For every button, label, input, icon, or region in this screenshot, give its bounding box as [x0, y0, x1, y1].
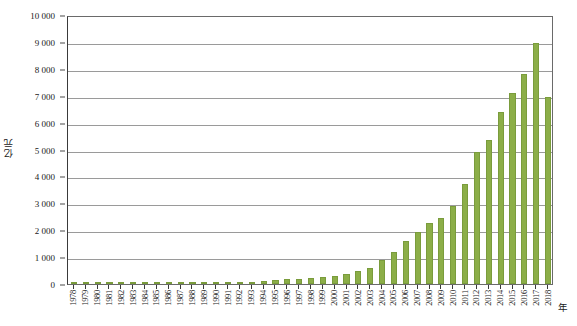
bar [343, 274, 349, 284]
x-tick-mark [263, 285, 264, 289]
x-tick-label: 2001 [341, 290, 351, 306]
y-tick-mark [60, 177, 65, 178]
y-tick-label: 4 000 [35, 172, 55, 182]
x-tick-mark [191, 285, 192, 289]
x-tick-label: 1978 [68, 290, 78, 306]
bar [118, 282, 124, 284]
x-tick-label: 2015 [507, 290, 517, 306]
x-tick-label: 1990 [211, 290, 221, 306]
x-tick-label: 2018 [543, 290, 553, 306]
bar [379, 260, 385, 284]
x-tick-label: 1986 [163, 290, 173, 306]
x-tick-mark [227, 285, 228, 289]
x-tick-mark [334, 285, 335, 289]
x-tick-label: 2014 [495, 290, 505, 306]
x-tick-label: 1979 [80, 290, 90, 306]
x-tick-mark [215, 285, 216, 289]
y-tick-label: 1 000 [35, 253, 55, 263]
x-tick-label: 2017 [531, 290, 541, 306]
y-tick-label: 6 000 [35, 119, 55, 129]
bar [237, 282, 243, 284]
x-tick-label: 1996 [282, 290, 292, 306]
x-tick-mark [476, 285, 477, 289]
x-tick-mark [488, 285, 489, 289]
x-tick-label: 1994 [258, 290, 268, 306]
y-tick-label: 3 000 [35, 199, 55, 209]
x-tick-label: 2006 [400, 290, 410, 306]
y-tick-mark [60, 150, 65, 151]
y-tick-mark [60, 204, 65, 205]
x-tick-mark [393, 285, 394, 289]
y-tick-mark [60, 231, 65, 232]
x-tick-mark [168, 285, 169, 289]
x-tick-mark [346, 285, 347, 289]
x-tick-mark [203, 285, 204, 289]
y-axis-labels: 01 0002 0003 0004 0005 0006 0007 0008 00… [0, 0, 67, 326]
x-tick-mark [357, 285, 358, 289]
bar [71, 282, 77, 284]
x-tick-mark [405, 285, 406, 289]
x-tick-mark [73, 285, 74, 289]
x-tick-label: 2011 [460, 290, 470, 306]
x-tick-label: 2004 [377, 290, 387, 306]
x-tick-mark [132, 285, 133, 289]
x-tick-label: 1980 [92, 290, 102, 306]
x-tick-label: 1998 [306, 290, 316, 306]
bar [213, 282, 219, 284]
y-tick-mark [60, 285, 65, 286]
x-tick-label: 1989 [199, 290, 209, 306]
bar [189, 282, 195, 284]
x-tick-mark [429, 285, 430, 289]
bar [332, 276, 338, 284]
x-tick-mark [535, 285, 536, 289]
x-tick-mark [97, 285, 98, 289]
x-tick-mark [298, 285, 299, 289]
x-tick-label: 2007 [412, 290, 422, 306]
x-tick-label: 1991 [223, 290, 233, 306]
bars-layer [68, 17, 552, 284]
x-tick-label: 1985 [151, 290, 161, 306]
bar [261, 281, 267, 284]
bar [225, 282, 231, 284]
x-tick-mark [251, 285, 252, 289]
x-tick-mark [310, 285, 311, 289]
bar [426, 223, 432, 284]
y-tick-label: 8 000 [35, 65, 55, 75]
bar [498, 112, 504, 284]
x-tick-mark [180, 285, 181, 289]
bar [450, 206, 456, 284]
bar [521, 74, 527, 284]
x-tick-label: 2010 [448, 290, 458, 306]
bar [154, 282, 160, 284]
x-tick-label: 2002 [353, 290, 363, 306]
bar [166, 282, 172, 284]
x-tick-label: 1987 [175, 290, 185, 306]
x-tick-mark [547, 285, 548, 289]
x-tick-label: 2012 [471, 290, 481, 306]
x-tick-mark [512, 285, 513, 289]
x-tick-mark [85, 285, 86, 289]
bar [178, 282, 184, 284]
y-tick-mark [60, 69, 65, 70]
plot-area [67, 16, 553, 285]
bar [142, 282, 148, 284]
x-tick-label: 1982 [116, 290, 126, 306]
bar [201, 282, 207, 284]
x-tick-label: 1981 [104, 290, 114, 306]
x-tick-mark [417, 285, 418, 289]
x-tick-label: 1988 [187, 290, 197, 306]
x-axis-title: 年 [558, 300, 568, 314]
bar [391, 252, 397, 284]
bar [296, 279, 302, 284]
bar [83, 282, 89, 284]
x-tick-label: 2000 [329, 290, 339, 306]
x-tick-mark [108, 285, 109, 289]
y-tick-mark [60, 16, 65, 17]
y-tick-label: 0 [51, 280, 56, 290]
x-tick-label: 2013 [483, 290, 493, 306]
x-tick-mark [286, 285, 287, 289]
x-tick-mark [369, 285, 370, 289]
x-tick-label: 2003 [365, 290, 375, 306]
y-tick-mark [60, 123, 65, 124]
y-tick-mark [60, 258, 65, 259]
